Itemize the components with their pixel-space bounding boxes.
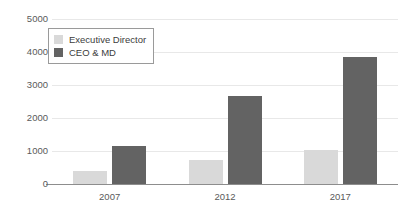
y-tick-label: 3000	[4, 80, 48, 90]
legend-item-executive-director[interactable]: Executive Director	[54, 33, 146, 46]
legend-label: CEO & MD	[69, 48, 116, 58]
x-tick-label-2007: 2007	[80, 192, 140, 202]
bar-ceo-md-2007	[112, 146, 146, 184]
x-tick-label-2012: 2012	[195, 192, 255, 202]
bar-ceo-md-2017	[343, 57, 377, 184]
y-tick-label: 4000	[4, 47, 48, 57]
bar-ceo-md-2012	[228, 96, 262, 184]
bar-executive-director-2012	[189, 160, 223, 184]
gridline-5000	[52, 19, 398, 20]
x-tick-label-2017: 2017	[310, 192, 370, 202]
x-axis-line	[46, 184, 398, 185]
legend-swatch-icon	[54, 35, 63, 44]
y-tick-label: 0	[4, 179, 48, 189]
y-tick-label: 5000	[4, 14, 48, 24]
legend-swatch-icon	[54, 48, 63, 57]
y-tick-label: 2000	[4, 113, 48, 123]
legend-item-ceo-md[interactable]: CEO & MD	[54, 46, 146, 59]
y-axis-tick-labels: 010002000300040005000	[0, 0, 48, 216]
bar-executive-director-2017	[304, 150, 338, 184]
bar-chart: 010002000300040005000 200720122017 Execu…	[0, 0, 413, 216]
chart-legend: Executive DirectorCEO & MD	[48, 28, 154, 64]
legend-label: Executive Director	[69, 35, 146, 45]
bar-executive-director-2007	[73, 171, 107, 184]
y-tick-label: 1000	[4, 146, 48, 156]
